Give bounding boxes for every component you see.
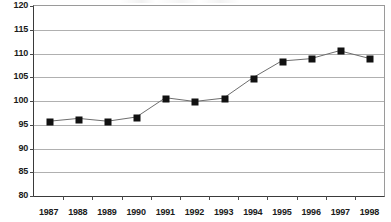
x-axis-tick-label: 1998 [360,207,379,217]
y-axis-tick-label: 90 [0,143,28,152]
x-axis-tick-label: 1992 [185,207,204,217]
x-axis-tick [297,196,298,200]
data-point [46,119,53,126]
x-axis-tick-label: 1989 [97,207,116,217]
x-axis-tick-label: 1988 [68,207,87,217]
x-axis-tick [92,196,93,200]
data-point [338,48,345,55]
x-axis-tick-label: 1995 [272,207,291,217]
x-axis-tick-label: 1996 [301,207,320,217]
x-axis-tick [63,196,64,200]
y-axis-tick-label: 100 [0,96,28,105]
y-axis-tick-label: 85 [0,167,28,176]
x-axis-tick [267,196,268,200]
line-chart: 80859095100105110115120 1987198819891990… [0,0,391,222]
plot-area [33,5,385,197]
x-axis-tick [122,196,123,200]
x-axis-tick-label: 1990 [126,207,145,217]
data-point [163,95,170,102]
y-axis-tick [30,196,34,197]
data-point [250,75,257,82]
y-axis-tick-label: 110 [0,48,28,57]
x-axis-tick [209,196,210,200]
data-point [221,96,228,103]
data-point [75,116,82,123]
x-axis-tick-label: 1987 [39,207,58,217]
x-axis-labels: 1987198819891990199119921993199419951996… [33,201,385,221]
y-axis-tick-label: 95 [0,119,28,128]
scan-artifact [120,0,240,3]
data-point [309,56,316,63]
x-axis-tick [180,196,181,200]
x-axis-tick-label: 1991 [156,207,175,217]
data-point [192,99,199,106]
series-polyline [49,51,368,122]
x-axis-tick [151,196,152,200]
x-axis-tick [238,196,239,200]
y-axis-tick-label: 120 [0,1,28,10]
y-axis-tick-label: 105 [0,72,28,81]
series-line [34,6,384,196]
x-axis-tick [355,196,356,200]
x-axis-tick-label: 1994 [243,207,262,217]
data-point [104,119,111,126]
x-axis-tick-label: 1997 [331,207,350,217]
data-point [279,58,286,65]
data-point [367,55,374,62]
data-point [134,115,141,122]
x-axis-tick-label: 1993 [214,207,233,217]
x-axis-tick [326,196,327,200]
y-axis-labels: 80859095100105110115120 [0,0,28,202]
y-axis-tick-label: 80 [0,191,28,200]
y-axis-tick-label: 115 [0,24,28,33]
